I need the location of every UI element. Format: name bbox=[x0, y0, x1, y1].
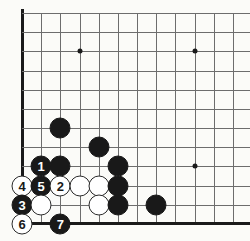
stone-move-number: 7 bbox=[57, 217, 64, 230]
grid-line-vertical bbox=[137, 13, 138, 225]
stone-black-move-7: 7 bbox=[50, 213, 71, 234]
go-board-diagram: 1452367 bbox=[0, 0, 250, 241]
stone-black-f bbox=[107, 194, 128, 215]
stone-white-move-4: 4 bbox=[12, 175, 33, 196]
grid-line-horizontal bbox=[22, 32, 250, 33]
stone-black-c bbox=[50, 156, 71, 177]
stone-black-g bbox=[146, 194, 167, 215]
stone-white-a bbox=[69, 175, 90, 196]
stone-move-number: 6 bbox=[18, 217, 25, 230]
stone-move-number: 5 bbox=[38, 179, 45, 192]
stone-move-number: 3 bbox=[18, 198, 25, 211]
stone-white-b bbox=[88, 175, 109, 196]
grid-line-horizontal bbox=[22, 147, 250, 148]
star-point-upper-right bbox=[192, 49, 197, 54]
stone-white-c bbox=[31, 194, 52, 215]
grid-line-horizontal bbox=[22, 90, 250, 91]
stone-black-a bbox=[50, 118, 71, 139]
grid-line-horizontal bbox=[22, 51, 250, 52]
grid-line-horizontal bbox=[22, 13, 250, 14]
stone-move-number: 1 bbox=[38, 160, 45, 173]
grid-line-vertical bbox=[175, 13, 176, 225]
stone-move-number: 2 bbox=[57, 179, 64, 192]
stone-black-move-5: 5 bbox=[31, 175, 52, 196]
grid-line-horizontal bbox=[22, 71, 250, 72]
stone-black-d bbox=[107, 156, 128, 177]
grid-line-vertical bbox=[233, 13, 234, 225]
grid-line-vertical bbox=[195, 13, 196, 225]
stone-black-b bbox=[88, 137, 109, 158]
stone-black-move-1: 1 bbox=[31, 156, 52, 177]
star-point-upper-left bbox=[77, 49, 82, 54]
stone-black-e bbox=[107, 175, 128, 196]
grid-line-horizontal bbox=[22, 109, 250, 110]
stone-move-number: 4 bbox=[18, 179, 25, 192]
grid-line-vertical bbox=[214, 13, 215, 225]
stone-white-move-6: 6 bbox=[12, 213, 33, 234]
stone-black-move-3: 3 bbox=[12, 194, 33, 215]
stone-white-d bbox=[88, 194, 109, 215]
stone-white-move-2: 2 bbox=[50, 175, 71, 196]
grid-line-horizontal bbox=[22, 205, 250, 206]
star-point-lower-right bbox=[192, 164, 197, 169]
